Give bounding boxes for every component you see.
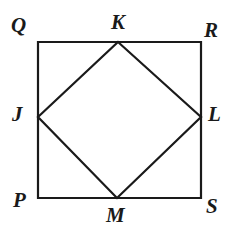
vertex-label-p: P — [13, 190, 26, 211]
vertex-label-k: K — [111, 12, 125, 33]
vertex-label-q: Q — [11, 15, 26, 36]
geometry-figure: Q R S P K L M J — [0, 0, 231, 238]
vertex-label-m: M — [106, 205, 125, 226]
outer-square-pqrs — [38, 42, 201, 198]
inscribed-quadrilateral-jklm — [38, 42, 201, 198]
vertex-label-l: L — [208, 104, 221, 125]
vertex-label-s: S — [206, 196, 218, 217]
vertex-label-j: J — [12, 104, 23, 125]
vertex-label-r: R — [204, 20, 218, 41]
